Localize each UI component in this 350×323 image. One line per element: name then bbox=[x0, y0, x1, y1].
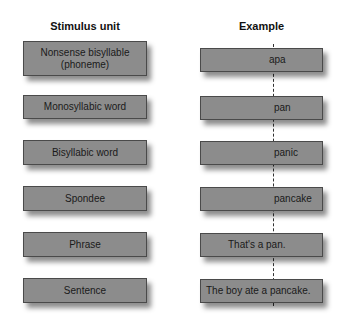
stimulus-label: Sentence bbox=[64, 285, 106, 297]
example-text: That's a pan. bbox=[228, 239, 286, 251]
example-text: panic bbox=[274, 147, 298, 159]
example-box-pancake: pancake bbox=[200, 187, 323, 211]
example-header: Example bbox=[200, 20, 323, 32]
example-text: apa bbox=[269, 54, 286, 66]
stimulus-box-nonsense-bisyllable: Nonsense bisyllable (phoneme) bbox=[23, 41, 147, 76]
example-text: pancake bbox=[274, 193, 312, 205]
alignment-dashed-line bbox=[273, 44, 274, 306]
example-box-panic: panic bbox=[200, 141, 323, 165]
example-box-phrase: That's a pan. bbox=[200, 233, 323, 257]
stimulus-label: Monosyllabic word bbox=[44, 101, 126, 113]
example-box-apa: apa bbox=[200, 48, 323, 72]
stimulus-box-spondee: Spondee bbox=[23, 186, 147, 211]
stimulus-box-sentence: Sentence bbox=[23, 278, 147, 303]
stimulus-label-line2: (phoneme) bbox=[61, 59, 109, 71]
example-box-sentence: The boy ate a pancake. bbox=[200, 279, 323, 303]
stimulus-box-bisyllabic-word: Bisyllabic word bbox=[23, 140, 147, 165]
example-box-pan: pan bbox=[200, 96, 323, 120]
stimulus-label-line1: Nonsense bisyllable bbox=[41, 47, 130, 59]
stimulus-box-phrase: Phrase bbox=[23, 232, 147, 257]
stimulus-label: Spondee bbox=[65, 193, 105, 205]
stimulus-label: Phrase bbox=[69, 239, 101, 251]
stimulus-unit-header: Stimulus unit bbox=[23, 20, 147, 32]
example-text: pan bbox=[274, 102, 291, 114]
stimulus-box-monosyllabic-word: Monosyllabic word bbox=[23, 95, 147, 119]
example-text: The boy ate a pancake. bbox=[206, 285, 311, 297]
stimulus-label: Bisyllabic word bbox=[52, 147, 118, 159]
